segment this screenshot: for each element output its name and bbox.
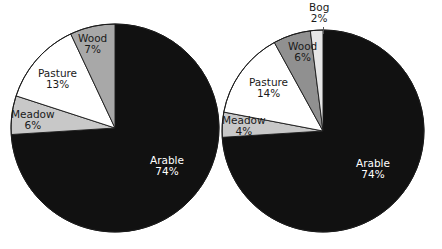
pie-chart-figure: Arable74%Meadow6%Pasture13%Wood7% Arable… [0,0,442,249]
left-pie-chart-graphic [0,0,221,249]
left-pie-chart-panel: Arable74%Meadow6%Pasture13%Wood7% [0,0,221,249]
right-pie-chart-panel: Arable74%Meadow4%Pasture14%Wood6%Bog2% [221,0,442,249]
right-pie-chart-graphic [221,0,442,249]
bog-leader-line [323,27,324,34]
